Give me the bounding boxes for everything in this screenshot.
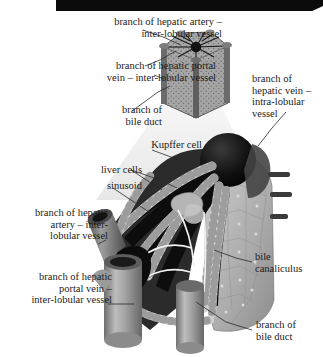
corner-vessel-right — [224, 45, 230, 103]
central-vein-small — [191, 42, 201, 52]
label-branch-of-bile-duct-bottom: branch of bile duct — [256, 319, 322, 342]
label-branch-of-hepatic-portal-vein-inter-lobular-vessel: branch of hepatic portal vein – inter-lo… — [6, 60, 216, 83]
bile-duct-tube — [176, 280, 204, 354]
label-kupffer-cell: Kupffer cell — [92, 139, 202, 151]
label-liver-cells: liver cells — [60, 164, 142, 176]
liver-lobule-figure: branch of hepatic artery – inter-lobular… — [0, 0, 323, 357]
label-branch-of-hepatic-vein-intra-lobular-vessel: branch of hepatic vein – intra-lobular v… — [252, 73, 322, 119]
label-branch-of-hepatic-artery-inter-lobular-vessel-lower: branch of hepatic artery – inter- lobula… — [4, 207, 108, 242]
label-branch-of-hepatic-portal-vein-inter-lobular-vessel-lower: branch of hepatic portal vein – inter-lo… — [2, 271, 112, 306]
label-bile-canaliculus: bile canaliculus — [255, 251, 323, 274]
label-branch-of-hepatic-artery-inter-lobular-vessel: branch of hepatic artery – inter-lobular… — [10, 16, 222, 39]
label-branch-of-bile-duct-top: branch of bile duct — [52, 104, 162, 127]
label-sinusoid: sinusoid — [52, 180, 142, 192]
